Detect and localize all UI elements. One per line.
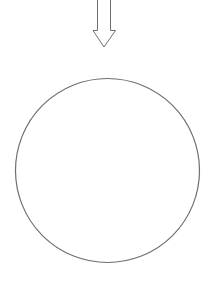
circle-shape (16, 79, 200, 263)
down-arrow-icon (93, 0, 116, 47)
diagram-canvas (0, 0, 212, 286)
